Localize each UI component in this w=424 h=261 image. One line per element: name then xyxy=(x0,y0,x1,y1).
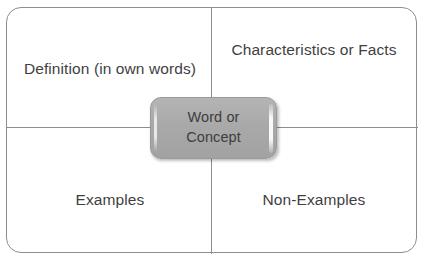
center-concept-box[interactable]: Word or Concept xyxy=(150,97,277,159)
center-concept-line-1: Word or xyxy=(186,108,241,128)
center-concept-line-2: Concept xyxy=(186,128,241,148)
frayer-model-diagram: Definition (in own words) Characteristic… xyxy=(0,0,424,261)
quadrant-non-examples-label: Non-Examples xyxy=(263,190,366,211)
center-concept-text: Word or Concept xyxy=(186,108,241,147)
quadrant-non-examples[interactable]: Non-Examples xyxy=(215,160,413,240)
quadrant-definition-label: Definition (in own words) xyxy=(24,59,196,80)
quadrant-characteristics-label: Characteristics or Facts xyxy=(231,40,396,61)
quadrant-examples[interactable]: Examples xyxy=(12,160,208,240)
quadrant-examples-label: Examples xyxy=(76,190,145,211)
